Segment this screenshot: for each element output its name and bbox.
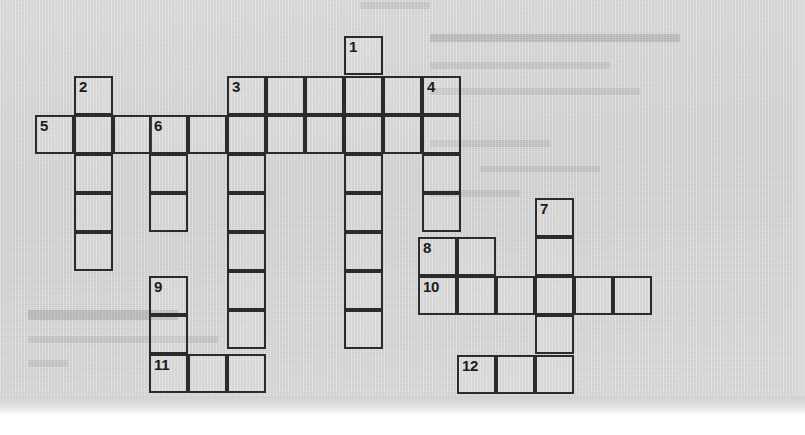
crossword-cell[interactable] — [344, 232, 383, 271]
crossword-clue-number-6: 6 — [154, 117, 162, 134]
crossword-cell[interactable]: 7 — [535, 198, 574, 237]
crossword-clue-number-1: 1 — [349, 38, 357, 55]
crossword-cell[interactable] — [74, 154, 113, 193]
crossword-cell[interactable]: 4 — [422, 76, 461, 115]
crossword-clue-number-11: 11 — [154, 356, 169, 373]
crossword-cell[interactable]: 9 — [149, 276, 188, 315]
crossword-cell[interactable] — [344, 115, 383, 154]
crossword-cell[interactable]: 5 — [35, 115, 74, 154]
crossword-cell[interactable] — [227, 232, 266, 271]
crossword-cell[interactable] — [305, 115, 344, 154]
crossword-cell-letter — [307, 78, 342, 113]
crossword-cell-letter — [346, 312, 381, 347]
crossword-cell-letter — [76, 117, 111, 152]
crossword-clue-number-12: 12 — [462, 357, 478, 374]
crossword-cell[interactable] — [74, 232, 113, 271]
crossword-cell[interactable] — [149, 315, 188, 354]
crossword-cell-letter — [537, 357, 572, 392]
crossword-cell[interactable]: 12 — [457, 355, 496, 394]
crossword-cell-letter — [229, 156, 264, 191]
crossword-cell[interactable] — [344, 76, 383, 115]
crossword-cell[interactable] — [457, 237, 496, 276]
paper-bottom-edge — [0, 396, 805, 416]
crossword-cell[interactable] — [422, 193, 461, 232]
crossword-cell[interactable] — [383, 115, 422, 154]
crossword-cell[interactable] — [422, 115, 461, 154]
crossword-cell-letter — [268, 78, 303, 113]
crossword-cell-letter — [424, 156, 459, 191]
crossword-cell-letter — [307, 117, 342, 152]
crossword-cell-letter — [151, 156, 186, 191]
crossword-cell[interactable] — [266, 115, 305, 154]
crossword-cell-letter — [537, 239, 572, 274]
crossword-cell[interactable] — [305, 76, 344, 115]
crossword-cell-letter — [459, 239, 494, 274]
crossword-cell-letter — [346, 78, 381, 113]
crossword-clue-number-4: 4 — [427, 78, 435, 95]
crossword-cell[interactable] — [113, 115, 152, 154]
crossword-cell[interactable] — [344, 271, 383, 310]
crossword-cell[interactable]: 6 — [149, 115, 188, 154]
crossword-cell[interactable] — [188, 354, 227, 393]
crossword-cell[interactable] — [496, 276, 535, 315]
crossword-cell[interactable] — [188, 115, 227, 154]
crossword-cell[interactable] — [535, 237, 574, 276]
crossword-cell-letter — [229, 273, 264, 308]
crossword-cell[interactable]: 10 — [418, 276, 457, 315]
crossword-cell-letter — [346, 156, 381, 191]
crossword-clue-number-3: 3 — [232, 78, 240, 95]
crossword-clue-number-10: 10 — [423, 278, 439, 295]
crossword-cell[interactable] — [535, 276, 574, 315]
crossword-cell[interactable] — [535, 315, 574, 354]
crossword-cell-letter — [151, 317, 186, 352]
crossword-cell-letter — [385, 78, 420, 113]
crossword-cell[interactable] — [74, 115, 113, 154]
crossword-cell-letter — [537, 317, 572, 352]
crossword-clue-number-9: 9 — [154, 278, 162, 295]
crossword-cell[interactable] — [422, 154, 461, 193]
crossword-cell[interactable] — [574, 276, 613, 315]
crossword-cell[interactable] — [383, 76, 422, 115]
crossword-cell-letter — [229, 117, 264, 152]
crossword-cell-letter — [346, 117, 381, 152]
crossword-cell[interactable] — [227, 310, 266, 349]
crossword-cell-letter — [537, 278, 572, 313]
crossword-cell-letter — [346, 273, 381, 308]
crossword-cell[interactable] — [227, 154, 266, 193]
crossword-cell[interactable] — [613, 276, 652, 315]
crossword-cell[interactable] — [344, 154, 383, 193]
crossword-cell-letter — [385, 117, 420, 152]
crossword-cell[interactable] — [496, 355, 535, 394]
crossword-cell[interactable] — [457, 276, 496, 315]
crossword-cell[interactable] — [74, 193, 113, 232]
crossword-cell[interactable] — [266, 76, 305, 115]
crossword-cell[interactable] — [149, 193, 188, 232]
crossword-cell[interactable] — [535, 355, 574, 394]
crossword-cell-letter — [346, 234, 381, 269]
crossword-cell[interactable]: 3 — [227, 76, 266, 115]
crossword-cell-letter — [498, 278, 533, 313]
crossword-clue-number-8: 8 — [423, 239, 431, 256]
crossword-cell[interactable]: 8 — [418, 237, 457, 276]
crossword-cell-letter — [229, 195, 264, 230]
crossword-cell-letter — [424, 117, 459, 152]
crossword-cell[interactable] — [227, 271, 266, 310]
crossword-cell-letter — [151, 195, 186, 230]
paper-right-edge-shadow — [790, 0, 805, 409]
crossword-cell-letter — [615, 278, 650, 313]
crossword-cell[interactable]: 1 — [344, 36, 383, 75]
crossword-cell[interactable]: 11 — [149, 354, 188, 393]
crossword-cell[interactable] — [227, 354, 266, 393]
crossword-cell[interactable] — [344, 193, 383, 232]
crossword-cell-letter — [424, 195, 459, 230]
crossword-cell-letter — [346, 195, 381, 230]
crossword-cell-letter — [498, 357, 533, 392]
crossword-cell-letter — [76, 234, 111, 269]
crossword-cell[interactable] — [344, 310, 383, 349]
crossword-cell[interactable] — [149, 154, 188, 193]
crossword-cell[interactable] — [227, 193, 266, 232]
crossword-cell-letter — [229, 356, 264, 391]
crossword-cell-letter — [190, 117, 225, 152]
crossword-cell[interactable]: 2 — [74, 76, 113, 115]
crossword-cell[interactable] — [227, 115, 266, 154]
